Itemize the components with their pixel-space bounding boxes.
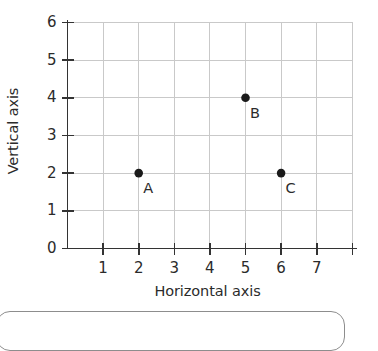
axis-lines-group	[66, 20, 358, 248]
data-point-a	[134, 169, 143, 178]
y-tick-label: 2	[37, 166, 57, 181]
x-tick-label: 3	[164, 261, 184, 276]
y-tick-label: 0	[37, 241, 57, 256]
data-point-label-a: A	[143, 181, 153, 196]
x-tick-label: 1	[93, 261, 113, 276]
tick-marks-group	[62, 22, 353, 254]
x-tick-label: 7	[307, 261, 327, 276]
data-point-b	[241, 93, 250, 102]
y-tick-label: 4	[37, 90, 57, 105]
x-tick-label: 2	[129, 261, 149, 276]
y-tick-label: 1	[37, 203, 57, 218]
data-point-c	[277, 169, 286, 178]
y-tick-label: 5	[37, 53, 57, 68]
x-tick-label: 6	[271, 261, 291, 276]
y-tick-label: 3	[37, 128, 57, 143]
data-point-label-b: B	[250, 106, 260, 121]
y-tick-label: 6	[37, 15, 57, 30]
gridlines-group	[68, 22, 353, 248]
x-tick-label: 5	[236, 261, 256, 276]
bottom-rounded-panel	[0, 311, 345, 351]
data-point-label-c: C	[286, 181, 296, 196]
x-tick-label: 4	[200, 261, 220, 276]
